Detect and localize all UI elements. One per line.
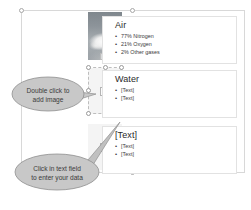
panel-third[interactable]: [Text] [Text] [Text] — [102, 126, 237, 174]
frame-handle-top-left[interactable] — [19, 8, 24, 13]
callout-add-image-line1: Double click to — [27, 87, 70, 94]
bullet-item[interactable]: [Text] — [115, 86, 236, 94]
panel-air-title: Air — [115, 20, 236, 31]
panel-air-bullets: 77% Nitrogen 21% Oxygen 2% Other gases — [115, 32, 236, 56]
panel-water-bullets: [Text] [Text] — [115, 86, 236, 102]
frame-handle-top-center[interactable] — [130, 8, 135, 13]
panel-water[interactable]: Water [Text] [Text] — [102, 70, 237, 118]
panel-water-title: Water — [115, 74, 236, 85]
callout-add-image-line2: add image — [33, 96, 64, 104]
callout-enter-data: Click in text field to enter your data — [12, 148, 122, 206]
panel-air[interactable]: Air 77% Nitrogen 21% Oxygen 2% Other gas… — [102, 16, 237, 64]
bullet-item[interactable]: 21% Oxygen — [115, 40, 236, 48]
callout-enter-data-line1: Click in text field — [33, 165, 81, 172]
callout-bubble — [15, 154, 99, 190]
bullet-item[interactable]: 77% Nitrogen — [115, 32, 236, 40]
callout-add-image: Double click to add image — [10, 70, 98, 118]
bullet-item[interactable]: [Text] — [115, 150, 236, 158]
callout-bubble — [12, 77, 84, 111]
callout-enter-data-line2: to enter your data — [31, 174, 83, 182]
bullet-item[interactable]: [Text] — [115, 94, 236, 102]
bullet-item[interactable]: [Text] — [115, 142, 236, 150]
bullet-item[interactable]: 2% Other gases — [115, 48, 236, 56]
panel-third-bullets: [Text] [Text] — [115, 142, 236, 158]
panel-third-title[interactable]: [Text] — [115, 130, 236, 141]
